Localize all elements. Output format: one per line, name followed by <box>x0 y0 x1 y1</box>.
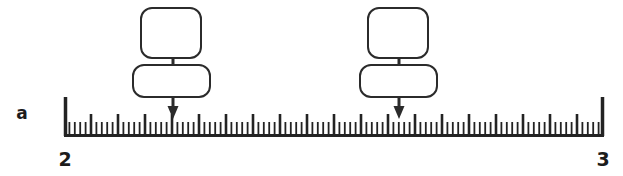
callout-arrow-head-icon <box>168 106 179 119</box>
ruler-tick-group <box>69 114 598 136</box>
callout-marker-group <box>133 8 437 119</box>
figure-root: a 2 3 <box>0 0 623 176</box>
callout-arrow-head-icon <box>394 106 405 119</box>
callout-upper-box[interactable] <box>368 8 428 58</box>
marker-left[interactable] <box>133 8 210 119</box>
ruler-figure-svg: a 2 3 <box>0 0 623 176</box>
scale-end-label: 3 <box>596 148 609 170</box>
panel-letter-label: a <box>16 103 27 123</box>
callout-lower-box[interactable] <box>360 65 437 97</box>
scale-start-label: 2 <box>58 148 71 170</box>
marker-right[interactable] <box>360 8 437 119</box>
callout-lower-box[interactable] <box>133 65 210 97</box>
callout-upper-box[interactable] <box>141 8 201 58</box>
